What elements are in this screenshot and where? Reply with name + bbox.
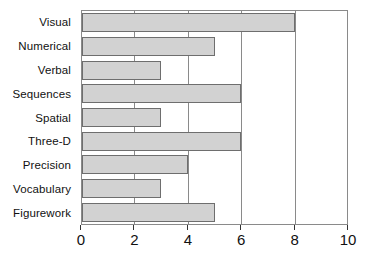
bar-row	[82, 106, 347, 130]
bar-row	[82, 200, 347, 224]
category-label: Numerical	[0, 34, 76, 58]
bar	[82, 203, 215, 222]
category-label: Vocabulary	[0, 177, 76, 201]
x-axis: 0246810	[81, 225, 348, 263]
bar-row	[82, 35, 347, 59]
category-label: Verbal	[0, 58, 76, 82]
x-tick-mark	[133, 225, 134, 230]
bars-layer	[82, 11, 347, 224]
bar	[82, 179, 161, 198]
bar	[82, 61, 161, 80]
x-tick-label: 6	[237, 231, 245, 248]
bar	[82, 108, 161, 127]
x-tick-mark	[347, 225, 348, 230]
x-tick-label: 2	[130, 231, 138, 248]
category-label: Spatial	[0, 106, 76, 130]
x-tick-label: 10	[340, 231, 357, 248]
x-tick-mark	[240, 225, 241, 230]
plot-inner	[82, 11, 347, 224]
bar-chart: VisualNumericalVerbalSequencesSpatialThr…	[0, 0, 372, 263]
category-label: Precision	[0, 153, 76, 177]
bar	[82, 84, 241, 103]
x-tick-mark	[187, 225, 188, 230]
category-label: Visual	[0, 10, 76, 34]
x-tick-label: 0	[77, 231, 85, 248]
bar-row	[82, 82, 347, 106]
bar	[82, 155, 188, 174]
category-axis: VisualNumericalVerbalSequencesSpatialThr…	[0, 10, 76, 225]
x-tick-mark	[294, 225, 295, 230]
bar-row	[82, 129, 347, 153]
bar	[82, 132, 241, 151]
x-tick-label: 4	[184, 231, 192, 248]
x-tick-label: 8	[290, 231, 298, 248]
bar-row	[82, 177, 347, 201]
bar-row	[82, 58, 347, 82]
category-label: Three-D	[0, 129, 76, 153]
plot-area	[81, 10, 348, 225]
bar	[82, 37, 215, 56]
x-tick-mark	[80, 225, 81, 230]
category-label: Figurework	[0, 201, 76, 225]
bar-row	[82, 11, 347, 35]
bar	[82, 13, 295, 32]
category-label: Sequences	[0, 82, 76, 106]
bar-row	[82, 153, 347, 177]
